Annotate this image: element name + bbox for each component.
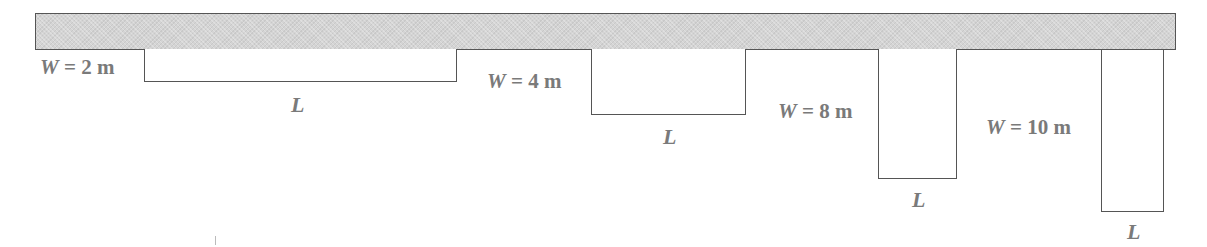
var-w: W [487, 69, 506, 93]
width-label-w2: W = 2 m [40, 55, 114, 80]
width-value: = 10 m [1005, 115, 1071, 139]
width-value: = 8 m [797, 99, 853, 123]
var-w: W [986, 115, 1005, 139]
length-label-w10: L [1127, 219, 1140, 245]
width-value: = 2 m [59, 55, 115, 79]
width-value: = 4 m [506, 69, 562, 93]
length-label-w2: L [291, 92, 304, 118]
width-label-w10: W = 10 m [986, 115, 1071, 140]
plate-w8 [878, 49, 957, 179]
stray-mark [215, 236, 216, 245]
top-beam [35, 13, 1176, 50]
var-w: W [40, 55, 59, 79]
length-label-w4: L [663, 124, 676, 150]
plate-w4 [591, 49, 746, 115]
plate-w2 [144, 49, 457, 82]
width-label-w8: W = 8 m [778, 99, 852, 124]
width-label-w4: W = 4 m [487, 69, 561, 94]
plate-w10 [1101, 50, 1164, 212]
var-w: W [778, 99, 797, 123]
length-label-w8: L [912, 187, 925, 213]
